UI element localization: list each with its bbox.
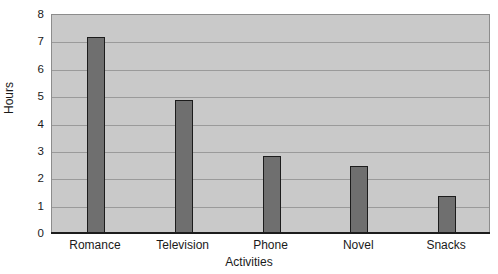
x-axis-line: [51, 232, 490, 234]
y-tick-label: 6: [22, 63, 44, 75]
bar: [438, 196, 456, 233]
bar-chart: Hours 876543210 Activities RomanceTelevi…: [0, 0, 498, 274]
y-tick-label: 8: [22, 8, 44, 20]
y-tick-label: 7: [22, 35, 44, 47]
gridline: [52, 125, 489, 126]
bar: [87, 37, 105, 233]
y-tick-label: 3: [22, 145, 44, 157]
bar: [350, 166, 368, 233]
x-tick-label: Novel: [343, 238, 374, 253]
x-tick-label: Phone: [253, 238, 288, 253]
y-tick-label: 0: [22, 227, 44, 239]
bar: [263, 156, 281, 233]
x-tick-label: Romance: [69, 238, 120, 253]
x-tick-label: Snacks: [426, 238, 465, 253]
y-tick-label: 4: [22, 118, 44, 130]
plot-area: [51, 14, 490, 233]
gridline: [52, 97, 489, 98]
y-tick-label: 2: [22, 172, 44, 184]
gridline: [52, 152, 489, 153]
x-tick-label: Television: [156, 238, 209, 253]
y-axis-title: Hours: [0, 34, 18, 114]
gridline: [52, 42, 489, 43]
y-axis-ticks: 876543210: [22, 0, 44, 274]
bar: [175, 100, 193, 233]
x-axis-title: Activities: [0, 255, 498, 270]
y-tick-label: 5: [22, 90, 44, 102]
gridline: [52, 70, 489, 71]
y-tick-label: 1: [22, 200, 44, 212]
